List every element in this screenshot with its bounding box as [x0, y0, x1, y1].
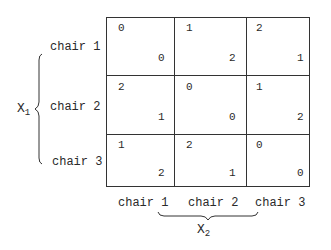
cell-r3c3-bottom-right: 0	[297, 167, 304, 179]
cell-r1c2-top-left: 1	[186, 22, 193, 34]
cell-r3c2-top-left: 2	[186, 139, 193, 151]
payoff-matrix: 0 0 1 2 2 1 2 1 0 0 1 2 1 2 2 1 0 0	[106, 17, 309, 186]
cell-r2c3-top-left: 1	[256, 81, 263, 93]
cell-r2c2-bottom-right: 0	[229, 111, 236, 123]
grid-line	[174, 17, 175, 187]
column-label-chair-1: chair 1	[118, 196, 168, 210]
cell-r2c1-top-left: 2	[118, 81, 125, 93]
row-label-chair-3: chair 3	[52, 155, 102, 169]
grid-line	[106, 186, 310, 187]
grid-line	[106, 134, 309, 135]
cell-r3c3-top-left: 0	[256, 139, 263, 151]
grid-line	[106, 75, 309, 76]
row-label-chair-2: chair 2	[50, 100, 100, 114]
grid-line	[246, 17, 247, 187]
row-player-label: X1	[17, 102, 30, 120]
grid-line	[106, 17, 107, 187]
row-brace-icon	[32, 50, 48, 168]
row-label-chair-1: chair 1	[50, 40, 100, 54]
cell-r2c2-top-left: 0	[186, 81, 193, 93]
column-player-label: X2	[197, 223, 210, 241]
grid-line	[106, 17, 309, 18]
column-label-chair-3: chair 3	[255, 196, 305, 210]
cell-r1c3-bottom-right: 1	[297, 52, 304, 64]
column-brace-icon	[155, 210, 261, 224]
column-label-chair-2: chair 2	[188, 196, 238, 210]
cell-r3c1-bottom-right: 2	[158, 167, 165, 179]
cell-r1c2-bottom-right: 2	[229, 52, 236, 64]
grid-line	[309, 17, 310, 187]
cell-r3c2-bottom-right: 1	[229, 167, 236, 179]
cell-r1c1-bottom-right: 0	[158, 52, 165, 64]
cell-r1c1-top-left: 0	[118, 22, 125, 34]
cell-r1c3-top-left: 2	[256, 22, 263, 34]
cell-r2c3-bottom-right: 2	[297, 111, 304, 123]
cell-r2c1-bottom-right: 1	[158, 111, 165, 123]
cell-r3c1-top-left: 1	[118, 139, 125, 151]
